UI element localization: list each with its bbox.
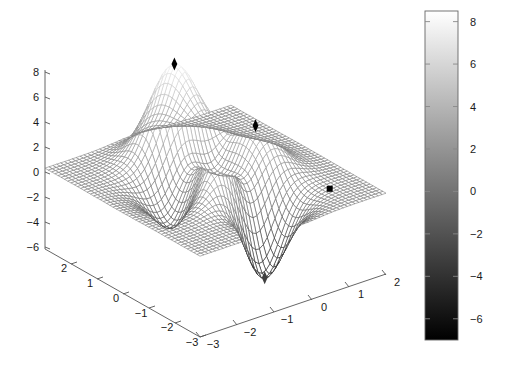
figure-canvas: 8 6 4 2 0 −2 −4 −6 2 1 0 −1 −2 −3 — [0, 0, 507, 372]
colorbar-tick-label-4: 0 — [470, 185, 476, 197]
colorbar[interactable]: 86420−2−4−6 — [0, 0, 507, 372]
colorbar-tick-label-5: −2 — [470, 228, 483, 240]
colorbar-tick-labels: 86420−2−4−6 — [470, 16, 483, 325]
colorbar-tick-label-1: 6 — [470, 58, 476, 70]
colorbar-tick-label-0: 8 — [470, 16, 476, 28]
colorbar-tick-label-6: −4 — [470, 270, 483, 282]
colorbar-tick-label-7: −6 — [470, 313, 483, 325]
colorbar-gradient[interactable] — [425, 11, 458, 340]
colorbar-tick-label-2: 4 — [470, 101, 476, 113]
colorbar-tick-label-3: 2 — [470, 143, 476, 155]
